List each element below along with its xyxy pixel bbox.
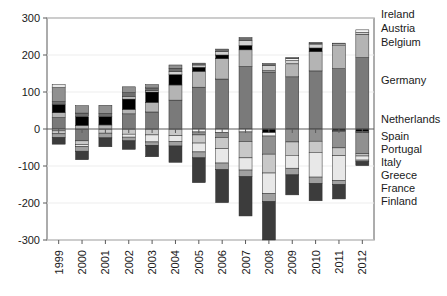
bar-segment-france[interactable] — [52, 88, 65, 102]
bar-segment-italy[interactable] — [286, 155, 299, 168]
bar-segment-netherlands[interactable] — [99, 125, 112, 129]
bar-segment-belgium[interactable] — [52, 105, 65, 113]
bar-segment-greece[interactable] — [192, 135, 205, 143]
bar-segment-france[interactable] — [146, 85, 159, 88]
bar-segment-austria[interactable] — [286, 61, 299, 64]
bar-segment-spain[interactable] — [122, 141, 135, 150]
bar-segment-austria[interactable] — [192, 65, 205, 67]
bar-segment-italy[interactable] — [309, 152, 322, 177]
bar-segment-portugal[interactable] — [239, 170, 252, 177]
bar-segment-greece[interactable] — [239, 142, 252, 158]
bar-segment-spain[interactable] — [76, 151, 89, 160]
bar-segment-netherlands[interactable] — [239, 50, 252, 67]
bar-segment-greece[interactable] — [332, 148, 345, 156]
bar-segment-belgium[interactable] — [99, 117, 112, 125]
bar-segment-germany[interactable] — [262, 72, 275, 129]
bar-segment-italy[interactable] — [76, 145, 89, 147]
bar-segment-germany[interactable] — [216, 79, 229, 129]
bar-segment-belgium[interactable] — [239, 45, 252, 49]
bar-segment-austria[interactable] — [309, 45, 322, 48]
bar-segment-finland[interactable] — [99, 113, 112, 116]
bar-segment-greece[interactable] — [216, 138, 229, 149]
bar-segment-portugal[interactable] — [332, 180, 345, 184]
bar-segment-netherlands[interactable] — [52, 113, 65, 118]
bar-segment-belgium[interactable] — [76, 117, 89, 126]
bar-segment-spain[interactable] — [239, 177, 252, 216]
bar-segment-ireland[interactable] — [286, 59, 299, 61]
bar-segment-germany[interactable] — [146, 112, 159, 129]
bar-segment-italy[interactable] — [52, 85, 65, 88]
bar-segment-italy[interactable] — [332, 156, 345, 181]
bar-segment-italy[interactable] — [146, 135, 159, 142]
bar-segment-france[interactable] — [76, 106, 89, 113]
bar-segment-finland[interactable] — [122, 93, 135, 97]
bar-segment-netherlands[interactable] — [332, 46, 345, 69]
bar-segment-belgium[interactable] — [122, 99, 135, 109]
bar-segment-france[interactable] — [332, 131, 345, 148]
bar-segment-germany[interactable] — [309, 71, 322, 129]
bar-segment-france[interactable] — [122, 87, 135, 93]
bar-segment-portugal[interactable] — [169, 142, 182, 146]
bar-segment-portugal[interactable] — [99, 133, 112, 137]
bar-segment-finland[interactable] — [216, 49, 229, 52]
bar-segment-greece[interactable] — [356, 154, 369, 156]
bar-segment-greece[interactable] — [286, 142, 299, 155]
bar-segment-greece[interactable] — [309, 141, 322, 152]
bar-segment-netherlands[interactable] — [356, 34, 369, 57]
bar-segment-austria[interactable] — [356, 32, 369, 34]
bar-segment-belgium[interactable] — [169, 75, 182, 85]
bar-segment-spain[interactable] — [262, 202, 275, 240]
bar-segment-netherlands[interactable] — [192, 71, 205, 87]
bar-segment-austria[interactable] — [216, 52, 229, 55]
bar-segment-spain[interactable] — [52, 138, 65, 145]
bar-segment-france[interactable] — [216, 133, 229, 138]
bar-segment-portugal[interactable] — [192, 152, 205, 158]
bar-segment-belgium[interactable] — [146, 92, 159, 102]
bar-segment-italy[interactable] — [239, 158, 252, 170]
bar-segment-italy[interactable] — [122, 134, 135, 137]
bar-segment-netherlands[interactable] — [309, 52, 322, 71]
bar-segment-spain[interactable] — [99, 138, 112, 147]
bar-segment-germany[interactable] — [122, 114, 135, 129]
bar-segment-netherlands[interactable] — [286, 64, 299, 77]
bar-segment-austria[interactable] — [332, 44, 345, 46]
bar-segment-netherlands[interactable] — [216, 59, 229, 79]
bar-segment-finland[interactable] — [192, 63, 205, 65]
bar-segment-france[interactable] — [99, 105, 112, 113]
bar-segment-ireland[interactable] — [262, 133, 275, 136]
bar-segment-netherlands[interactable] — [76, 125, 89, 129]
bar-segment-france[interactable] — [262, 136, 275, 154]
bar-segment-finland[interactable] — [52, 102, 65, 105]
bar-segment-netherlands[interactable] — [146, 102, 159, 112]
bar-segment-greece[interactable] — [76, 141, 89, 145]
bar-segment-spain[interactable] — [216, 170, 229, 203]
bar-segment-france[interactable] — [169, 65, 182, 68]
bar-segment-portugal[interactable] — [286, 168, 299, 175]
bar-segment-germany[interactable] — [169, 100, 182, 129]
bar-segment-italy[interactable] — [262, 173, 275, 193]
bar-segment-portugal[interactable] — [76, 147, 89, 151]
bar-segment-portugal[interactable] — [309, 177, 322, 183]
bar-segment-finland[interactable] — [286, 58, 299, 59]
bar-segment-netherlands[interactable] — [169, 85, 182, 100]
bar-segment-portugal[interactable] — [52, 134, 65, 138]
bar-segment-ireland[interactable] — [332, 43, 345, 44]
bar-segment-spain[interactable] — [286, 175, 299, 195]
bar-segment-italy[interactable] — [192, 143, 205, 152]
bar-segment-italy[interactable] — [356, 156, 369, 160]
bar-segment-spain[interactable] — [169, 146, 182, 162]
bar-segment-netherlands[interactable] — [122, 109, 135, 113]
bar-segment-spain[interactable] — [309, 183, 322, 200]
bar-segment-belgium[interactable] — [192, 67, 205, 71]
bar-segment-france[interactable] — [239, 132, 252, 142]
bar-segment-italy[interactable] — [216, 149, 229, 163]
bar-segment-finland[interactable] — [146, 88, 159, 91]
bar-segment-finland[interactable] — [239, 38, 252, 41]
bar-segment-portugal[interactable] — [146, 142, 159, 145]
bar-segment-portugal[interactable] — [122, 137, 135, 141]
bar-segment-spain[interactable] — [332, 185, 345, 199]
bar-segment-greece[interactable] — [262, 154, 275, 173]
bar-segment-austria[interactable] — [262, 65, 275, 70]
bar-segment-finland[interactable] — [262, 64, 275, 66]
bar-segment-portugal[interactable] — [262, 193, 275, 201]
